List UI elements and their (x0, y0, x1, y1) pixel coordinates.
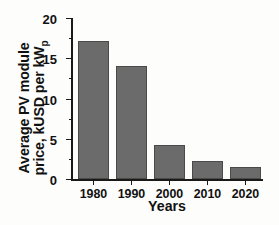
y-axis-title-line-1: Average PV module (17, 42, 32, 173)
bar-2000 (154, 145, 185, 179)
plot-area: 0 5 10 15 20 1980 1990 20 (71, 18, 263, 181)
x-tick-1 (131, 179, 132, 185)
y-tick-label-20: 20 (43, 12, 57, 27)
y-tick-20: 20 (66, 18, 73, 19)
x-tick-0 (93, 179, 94, 185)
bar-1990 (116, 66, 147, 180)
y-tick-minor-17_5 (69, 38, 73, 39)
y-tick-minor-7_5 (69, 119, 73, 120)
y-tick-0: 0 (66, 179, 73, 180)
y-axis-title-subscript: p (39, 40, 50, 46)
y-tick-15: 15 (66, 58, 73, 59)
x-axis-title: Years (71, 198, 263, 214)
y-tick-label-15: 15 (43, 52, 57, 67)
x-tick-3 (207, 179, 208, 185)
y-tick-minor-12_5 (69, 78, 73, 79)
bar-1980 (78, 41, 109, 179)
x-tick-2 (169, 179, 170, 185)
bar-2020 (230, 167, 261, 179)
y-tick-10: 10 (66, 99, 73, 100)
x-tick-4 (245, 179, 246, 185)
y-tick-label-0: 0 (50, 173, 57, 188)
bar-2010 (192, 161, 223, 179)
y-tick-minor-2_5 (69, 159, 73, 160)
bar-chart-figure: Average PV module price, kUSD per kWp 0 … (0, 0, 279, 225)
y-tick-5: 5 (66, 139, 73, 140)
y-tick-label-10: 10 (43, 92, 57, 107)
y-tick-label-5: 5 (50, 132, 57, 147)
